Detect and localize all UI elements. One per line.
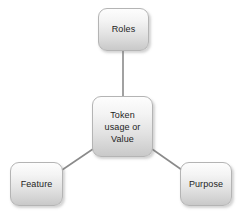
node-roles[interactable]: Roles	[98, 8, 149, 51]
node-purpose[interactable]: Purpose	[180, 162, 232, 206]
diagram-canvas: Roles Token usage or Value Feature Purpo…	[0, 0, 238, 215]
node-token-usage-or-value-label: Token usage or Value	[103, 109, 143, 145]
node-feature-label: Feature	[19, 179, 55, 190]
edge-center-to-purpose	[152, 149, 182, 170]
node-feature[interactable]: Feature	[10, 162, 63, 206]
edge-center-to-feature	[62, 149, 93, 170]
node-roles-label: Roles	[110, 24, 138, 35]
node-purpose-label: Purpose	[187, 179, 225, 190]
node-token-usage-or-value[interactable]: Token usage or Value	[92, 96, 153, 157]
